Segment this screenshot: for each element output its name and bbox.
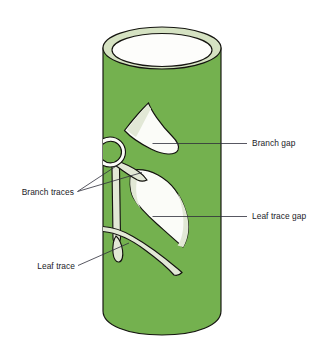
stem-hollow [112,34,212,67]
label-leaf-trace-gap: Leaf trace gap [252,211,307,221]
branch-ring [95,137,126,167]
label-branch-traces: Branch traces [22,187,74,197]
stem-diagram: Branch gap Leaf trace gap Branch traces … [0,0,325,355]
stem-top-rim [103,27,221,69]
label-branch-gap: Branch gap [252,138,296,148]
figure-root: Branch gap Leaf trace gap Branch traces … [0,0,325,355]
label-leaf-trace: Leaf trace [37,261,75,271]
